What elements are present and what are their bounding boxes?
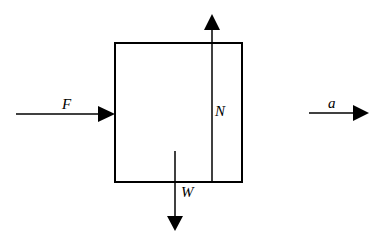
force-w-label: W <box>181 184 195 200</box>
acceleration-label: a <box>328 95 336 111</box>
arrowhead-down-icon <box>167 216 183 231</box>
acceleration-arrow <box>309 105 369 121</box>
arrowhead-right-icon <box>98 106 115 122</box>
force-n-arrow <box>204 14 220 182</box>
arrowhead-up-icon <box>204 14 220 30</box>
force-n-label: N <box>214 103 226 119</box>
free-body-diagram: F N W a <box>0 0 379 238</box>
arrowhead-right-icon <box>353 105 369 121</box>
force-f-label: F <box>61 96 72 112</box>
